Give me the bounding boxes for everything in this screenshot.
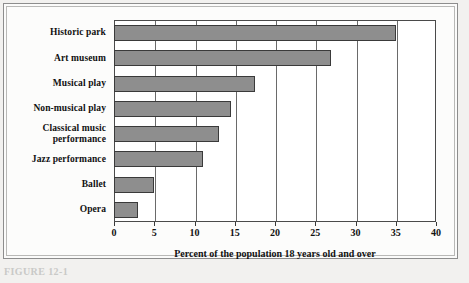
- bar-slot: [114, 197, 436, 222]
- bar: [114, 101, 231, 117]
- category-label: Musical play: [53, 78, 106, 89]
- x-axis-tick: [315, 222, 316, 226]
- bar-slot: [114, 20, 436, 45]
- category-label: Ballet: [82, 179, 106, 190]
- x-axis-tick: [235, 222, 236, 226]
- category-label-slot: Ballet: [0, 172, 111, 197]
- bars-layer: [114, 20, 436, 222]
- category-label-slot: Art museum: [0, 45, 111, 70]
- figure-caption: FIGURE 12-1: [4, 266, 68, 277]
- x-axis-tick-label: 20: [270, 227, 280, 238]
- bar: [114, 126, 219, 142]
- bar: [114, 151, 203, 167]
- x-axis-tick: [195, 222, 196, 226]
- bar: [114, 177, 154, 193]
- bar-slot: [114, 71, 436, 96]
- category-label-slot: Opera: [0, 197, 111, 222]
- x-axis-tick: [436, 222, 437, 226]
- bar: [114, 50, 331, 66]
- x-axis-tick: [396, 222, 397, 226]
- bar: [114, 202, 138, 218]
- bar-slot: [114, 146, 436, 171]
- bar-chart: Historic parkArt museumMusical playNon-m…: [0, 0, 469, 283]
- bar-slot: [114, 172, 436, 197]
- category-axis-labels: Historic parkArt museumMusical playNon-m…: [0, 20, 111, 222]
- category-label: Art museum: [54, 53, 106, 64]
- bar-slot: [114, 121, 436, 146]
- category-label-slot: Non-musical play: [0, 96, 111, 121]
- category-label: Opera: [80, 204, 106, 215]
- category-label: Classical music performance: [0, 123, 106, 144]
- x-axis-tick-label: 40: [431, 227, 441, 238]
- category-label-slot: Jazz performance: [0, 146, 111, 171]
- category-label-slot: Classical music performance: [0, 121, 111, 146]
- x-axis-tick: [154, 222, 155, 226]
- x-axis-title: Percent of the population 18 years old a…: [114, 248, 436, 259]
- x-axis-tick: [356, 222, 357, 226]
- x-axis-tick-label: 35: [391, 227, 401, 238]
- x-axis-tick-label: 30: [351, 227, 361, 238]
- category-label-slot: Historic park: [0, 20, 111, 45]
- bar: [114, 76, 255, 92]
- category-label-slot: Musical play: [0, 71, 111, 96]
- bar-slot: [114, 96, 436, 121]
- figure-container: Historic parkArt museumMusical playNon-m…: [0, 0, 469, 283]
- x-axis-tick-label: 10: [190, 227, 200, 238]
- x-axis-tick-label: 0: [112, 227, 117, 238]
- x-axis-tick: [275, 222, 276, 226]
- category-label: Jazz performance: [32, 154, 106, 165]
- x-axis-tick: [114, 222, 115, 226]
- x-axis-tick-label: 15: [230, 227, 240, 238]
- category-label: Non-musical play: [33, 103, 106, 114]
- bar-slot: [114, 45, 436, 70]
- bar: [114, 25, 396, 41]
- x-axis-tick-label: 5: [152, 227, 157, 238]
- category-label: Historic park: [50, 27, 106, 38]
- x-axis-tick-label: 25: [310, 227, 320, 238]
